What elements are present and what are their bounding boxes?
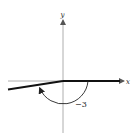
terminal-side [8,81,63,90]
x-axis-label: x [126,78,130,86]
angle-label: −3 [75,100,87,109]
angle-diagram: x y −3 [0,0,134,133]
y-axis-label: y [60,11,66,19]
